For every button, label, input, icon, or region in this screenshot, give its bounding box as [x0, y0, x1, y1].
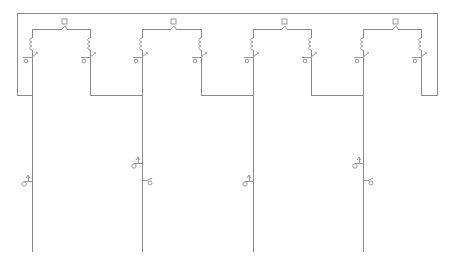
circuit-diagram [0, 0, 451, 270]
cell-4-left-junction-arrow-icon [363, 54, 367, 57]
cell-1-right-junction-dot-icon [94, 52, 96, 54]
cell-2-switch-box-icon [171, 19, 176, 24]
cell-3-left-junction-dot-icon [257, 52, 259, 54]
cell-1-right-junction-arrow-icon [90, 54, 94, 57]
cell-2-right-junction-dot-icon [205, 52, 207, 54]
cell-4-right-junction-circle-icon [413, 59, 417, 63]
cell-3-right-junction-arrow-icon [311, 54, 315, 57]
cell-1-right-junction-circle-icon [82, 59, 86, 63]
cell-3-left-coil-icon [251, 38, 253, 50]
cell-4-switch-box-icon [393, 19, 398, 24]
cell-4-switch-contact [393, 26, 398, 29]
cell-2-right-coil-icon [199, 38, 201, 50]
cell-1-switch-contact [62, 26, 67, 29]
right-tap-1-arrow-icon [148, 178, 152, 180]
cell-3-switch-contact [282, 26, 287, 29]
outer-bus-loop [17, 13, 437, 95]
cell-1-left-coil-icon [30, 38, 32, 50]
cell-3-switch-box-icon [282, 19, 287, 24]
cell-4-right-coil-icon [419, 38, 421, 50]
cell-1-left-junction-circle-icon [24, 59, 28, 63]
cell-3-right-junction-dot-icon [315, 52, 317, 54]
right-tap-2-circle-icon [369, 181, 373, 185]
cell-4-left-junction-dot-icon [367, 52, 369, 54]
cell-2-right-junction-circle-icon [193, 59, 197, 63]
cell-2-left-coil-icon [140, 38, 142, 50]
cell-4-right-junction-dot-icon [425, 52, 427, 54]
cell-1-switch-box-icon [62, 19, 67, 24]
left-tap-3-circle-icon [243, 182, 247, 186]
cell-3-right-coil-icon [309, 38, 311, 50]
cell-2-left-junction-arrow-icon [142, 54, 146, 57]
left-tap-1-circle-icon [22, 182, 26, 186]
cell-2-right-junction-arrow-icon [201, 54, 205, 57]
cell-1-left-junction-dot-icon [36, 52, 38, 54]
cell-2-switch-contact [171, 26, 176, 29]
schematic-canvas [0, 0, 451, 270]
cell-2-left-junction-circle-icon [134, 59, 138, 63]
right-tap-2-arrow-icon [369, 178, 373, 180]
right-tap-1-circle-icon [148, 181, 152, 185]
cell-4-right-junction-arrow-icon [421, 54, 425, 57]
cell-1-left-junction-arrow-icon [32, 54, 36, 57]
cell-3-right-junction-circle-icon [303, 59, 307, 63]
cell-2-left-junction-dot-icon [146, 52, 148, 54]
cell-1-right-coil-icon [88, 38, 90, 50]
left-tap-4-circle-icon [353, 164, 357, 168]
left-tap-2-circle-icon [132, 164, 136, 168]
cell-4-left-junction-circle-icon [355, 59, 359, 63]
cell-3-left-junction-circle-icon [245, 59, 249, 63]
cell-4-left-coil-icon [361, 38, 363, 50]
cell-3-left-junction-arrow-icon [253, 54, 257, 57]
